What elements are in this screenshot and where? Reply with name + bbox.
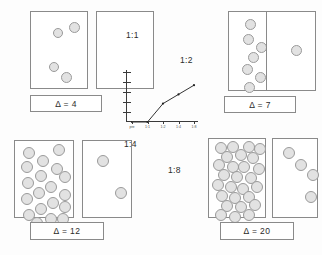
cell-dot <box>115 187 127 199</box>
chart-x-tick <box>194 121 195 124</box>
chart-x-tick-label: 1:2 <box>161 125 166 129</box>
cell-dot <box>37 155 49 167</box>
chart-plot-area <box>126 70 198 128</box>
cell-dot <box>248 52 259 63</box>
cell-dot <box>47 197 59 209</box>
ratio-label-1-4: 1:4 <box>124 139 137 149</box>
figure-root: Δ = 4 1:1 Δ = 7 1:2 Δ = 12 1:4 Δ = 20 1:… <box>0 0 322 255</box>
ratio-label-1-1: 1:1 <box>126 30 139 40</box>
delta-label-1-8: Δ = 20 <box>220 222 294 240</box>
cell-dot <box>97 155 109 167</box>
cell-dot <box>53 28 63 38</box>
cell-dot <box>59 189 71 201</box>
cell-dot <box>243 34 254 45</box>
cell-dot <box>49 62 59 72</box>
cell-dot <box>295 159 307 171</box>
cell-dot <box>305 191 317 203</box>
cell-dot <box>69 22 80 33</box>
cell-dot <box>22 177 34 189</box>
cell-dot <box>59 171 71 183</box>
cell-dot <box>242 64 253 75</box>
cell-dot <box>23 147 35 159</box>
chart-x-tick-label: 1:4 <box>176 125 181 129</box>
cell-dot <box>283 147 295 159</box>
central-line-chart: pre1:11:21:41:8 <box>126 70 198 128</box>
cell-dot <box>35 203 47 215</box>
cell-dot <box>307 169 319 181</box>
cell-dot <box>245 19 256 30</box>
chart-x-tick-label: pre <box>129 125 134 129</box>
cell-dot <box>35 170 47 182</box>
cell-dot <box>21 193 33 205</box>
cell-dot <box>291 45 302 56</box>
cell-dot <box>255 72 266 83</box>
cell-dot <box>21 161 33 173</box>
panel-dense-1-8 <box>208 138 266 218</box>
panel-dense-1-1 <box>30 11 88 89</box>
cell-dot <box>45 181 57 193</box>
cell-dot <box>33 187 45 199</box>
cell-dot <box>61 72 72 83</box>
panel-dense-1-4 <box>14 140 74 218</box>
delta-label-1-2: Δ = 7 <box>224 96 296 113</box>
panel-sparse-1-8 <box>272 138 318 218</box>
chart-x-tick <box>132 121 133 124</box>
chart-x-tick <box>163 121 164 124</box>
cell-dot <box>59 201 71 213</box>
chart-x-tick-label: 1:1 <box>145 125 150 129</box>
ratio-label-1-2: 1:2 <box>180 55 193 65</box>
cell-dot <box>235 149 247 161</box>
cell-dot <box>215 209 227 221</box>
panel-sparse-1-4 <box>82 140 132 218</box>
cell-dot <box>243 209 255 221</box>
delta-label-1-1: Δ = 4 <box>30 95 102 112</box>
cell-dot <box>53 144 65 156</box>
chart-x-tick <box>179 121 180 124</box>
cell-dot <box>244 82 255 93</box>
delta-label-1-4: Δ = 12 <box>30 222 104 240</box>
panel-sparse-1-2 <box>266 11 316 91</box>
chart-x-tick <box>148 121 149 124</box>
cell-dot <box>251 181 263 193</box>
ratio-label-1-8: 1:8 <box>168 165 181 175</box>
chart-x-tick-label: 1:8 <box>192 125 197 129</box>
